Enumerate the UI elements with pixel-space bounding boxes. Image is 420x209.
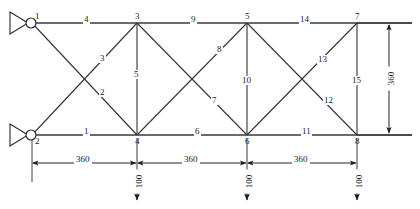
node-label-3: 3 <box>135 12 140 21</box>
member-label-1: 1 <box>83 127 90 136</box>
diagonal-members-group <box>32 23 357 135</box>
load-label-node-4: 100 <box>135 170 144 194</box>
dimension-label-panel-2: 360 <box>182 155 200 164</box>
member-label-4: 4 <box>83 15 90 24</box>
support-triangle-icon-2 <box>10 124 28 146</box>
member-label-2: 2 <box>99 88 106 97</box>
node-label-1: 1 <box>35 12 40 21</box>
dimension-label-panel-3: 360 <box>292 155 310 164</box>
vertical-dimension-line <box>357 23 412 135</box>
node-label-4: 4 <box>135 137 140 146</box>
dimension-label-height: 360 <box>387 67 396 91</box>
node-label-5: 5 <box>245 12 250 21</box>
member-label-14: 14 <box>299 15 310 24</box>
load-label-node-8: 100 <box>355 170 364 194</box>
member-label-3: 3 <box>99 54 106 63</box>
node-label-8: 8 <box>355 137 360 146</box>
node-label-2: 2 <box>35 137 40 146</box>
dimension-label-panel-1: 360 <box>74 155 92 164</box>
member-label-5: 5 <box>133 70 140 79</box>
truss-diagram-canvas: 1 2 3 4 5 6 7 8 1 2 3 4 5 6 7 8 9 10 11 … <box>0 0 420 209</box>
member-label-10: 10 <box>241 76 252 85</box>
member-label-6: 6 <box>194 127 201 136</box>
member-label-15: 15 <box>351 76 362 85</box>
member-label-8: 8 <box>216 45 223 54</box>
member-label-7: 7 <box>211 96 218 105</box>
member-label-11: 11 <box>301 127 312 136</box>
node-label-7: 7 <box>355 12 360 21</box>
support-node-1 <box>10 12 36 34</box>
load-label-node-6: 100 <box>245 170 254 194</box>
member-label-12: 12 <box>323 96 334 105</box>
node-label-6: 6 <box>245 137 250 146</box>
member-label-13: 13 <box>317 55 328 64</box>
member-label-9: 9 <box>190 15 197 24</box>
support-triangle-icon-1 <box>10 12 28 34</box>
